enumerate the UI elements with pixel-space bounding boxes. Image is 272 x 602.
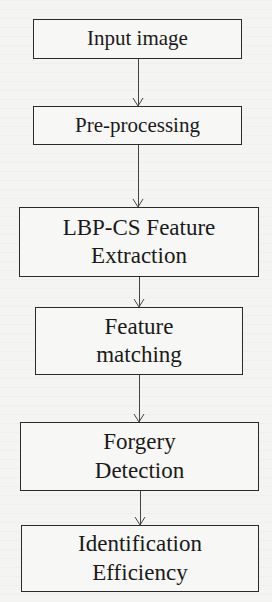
node-label-line-1: Feature [105,313,174,341]
node-label-line-1: Identification [78,530,202,558]
edge-preprocessing-to-lbpcs [138,145,139,207]
node-forgery-detection: Forgery Detection [20,422,259,491]
node-label-line-2: Detection [95,457,184,485]
node-label: Input image [87,26,188,52]
node-label-line-2: matching [96,341,182,369]
node-input-image: Input image [33,19,242,59]
node-feature-matching: Feature matching [35,307,243,375]
node-lbp-cs-feature-extraction: LBP-CS Feature Extraction [19,207,259,277]
node-label-line-2: Efficiency [92,559,187,587]
node-label-line-2: Extraction [91,242,187,270]
node-label-line-1: LBP-CS Feature [63,214,216,242]
node-label-line-1: Forgery [103,428,175,456]
node-pre-processing: Pre-processing [33,106,242,145]
node-label: Pre-processing [75,113,200,139]
node-identification-efficiency: Identification Efficiency [21,525,259,592]
